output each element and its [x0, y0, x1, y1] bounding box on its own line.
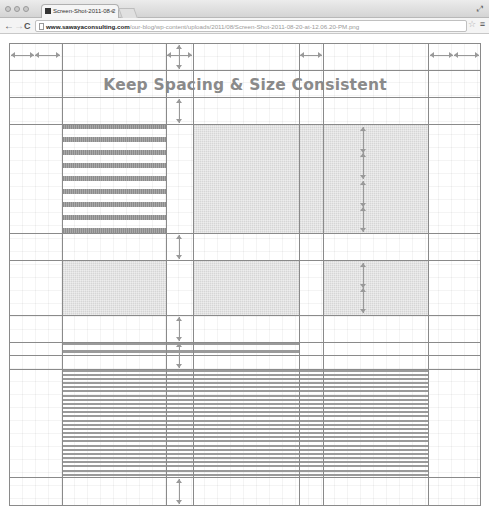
- favicon-icon: [45, 8, 51, 14]
- fullscreen-icon[interactable]: ⤢: [477, 4, 483, 14]
- grid-column-line: [62, 43, 63, 505]
- tab-title: Screen-Shot-2011-08-2: [53, 8, 115, 14]
- gray-block-middle: [193, 260, 299, 315]
- large-gray-block: [193, 124, 428, 233]
- grid-column-line: [166, 43, 167, 505]
- measure-arrow-horizontal: [454, 52, 479, 59]
- image-title: Keep Spacing & Size Consistent: [62, 72, 428, 99]
- grid-row-line: [9, 369, 481, 370]
- measure-arrow-vertical: [176, 317, 183, 341]
- grid-row-line: [9, 124, 481, 125]
- measure-arrow-vertical: [360, 207, 367, 232]
- page-icon: [39, 23, 44, 30]
- new-tab-button[interactable]: [118, 8, 138, 18]
- url-path: /our-blog/wp-content/uploads/2011/08/Scr…: [130, 23, 360, 30]
- text-lines-block: [62, 370, 428, 478]
- measure-arrow-horizontal: [300, 52, 322, 59]
- striped-block: [62, 124, 166, 233]
- tab-close-icon[interactable]: ×: [110, 5, 114, 18]
- gray-block-right: [323, 260, 428, 315]
- measure-arrow-vertical: [360, 127, 367, 153]
- measure-arrow-horizontal: [35, 52, 60, 59]
- browser-toolbar: ← → C www.sawayaconsulting.com/our-blog/…: [0, 18, 489, 34]
- grid-column-line: [9, 43, 10, 505]
- close-window-button[interactable]: [5, 6, 11, 12]
- measure-arrow-vertical: [176, 479, 183, 504]
- grid-row-line: [9, 355, 481, 356]
- grid-row-line: [9, 342, 481, 343]
- grid-row-line: [9, 260, 481, 261]
- tab-bar: Screen-Shot-2011-08-2 × ⤢: [0, 0, 489, 18]
- tab-screenshot[interactable]: Screen-Shot-2011-08-2 ×: [41, 4, 119, 18]
- grid-row-line: [9, 43, 481, 44]
- measure-arrow-vertical: [360, 181, 367, 207]
- grid-column-line: [299, 43, 300, 505]
- measure-arrow-horizontal: [11, 52, 34, 59]
- reload-button[interactable]: C: [24, 19, 31, 33]
- address-bar[interactable]: www.sawayaconsulting.com/our-blog/wp-con…: [35, 20, 467, 32]
- measure-arrow-vertical: [360, 288, 367, 313]
- url-domain: www.sawayaconsulting.com: [46, 23, 130, 30]
- browser-window: Screen-Shot-2011-08-2 × ⤢ ← → C www.sawa…: [0, 0, 489, 514]
- grid-column-line: [193, 43, 194, 505]
- grid-column-line: [480, 43, 481, 505]
- measure-arrow-vertical: [176, 99, 183, 123]
- forward-button[interactable]: →: [14, 19, 24, 33]
- grid-row-line: [9, 70, 481, 71]
- measure-arrow-vertical: [176, 235, 183, 259]
- image-canvas: Keep Spacing & Size Consistent: [0, 35, 489, 514]
- measure-arrow-vertical: [360, 263, 367, 288]
- minimize-window-button[interactable]: [14, 6, 20, 12]
- measure-arrow-horizontal: [430, 52, 453, 59]
- grid-column-line: [323, 43, 324, 505]
- measure-arrow-vertical: [176, 343, 183, 368]
- bookmark-star-icon[interactable]: ☆: [468, 19, 476, 29]
- grid-row-line: [9, 315, 481, 316]
- measure-arrow-vertical: [176, 45, 183, 69]
- zoom-window-button[interactable]: [23, 6, 29, 12]
- measure-arrow-vertical: [360, 153, 367, 179]
- menu-icon[interactable]: ≡: [480, 19, 485, 29]
- grid-column-line: [428, 43, 429, 505]
- gray-block-left: [62, 260, 166, 315]
- back-button[interactable]: ←: [4, 19, 14, 33]
- grid-row-line: [9, 505, 481, 506]
- grid-row-line: [9, 477, 481, 478]
- grid-row-line: [9, 233, 481, 234]
